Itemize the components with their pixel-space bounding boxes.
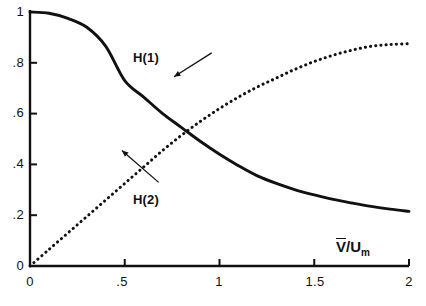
x-axis-title-subscript: m	[361, 247, 370, 258]
annotation-leader	[122, 150, 159, 182]
plot-canvas	[0, 0, 426, 306]
axis-lines	[30, 10, 409, 266]
series-annotation-h1: H(1)	[133, 50, 159, 65]
annotation-arrowhead	[174, 71, 181, 77]
y-tick-label-0-6: .6	[2, 105, 24, 120]
x-tick-label-0: 0	[18, 274, 42, 289]
x-tick-label-1: 1	[207, 274, 231, 289]
x-axis-title-denominator: U	[350, 238, 361, 255]
series-line-h1	[30, 12, 409, 211]
x-tick-label-1-5: 1.5	[300, 274, 330, 289]
chart-figure: 0 .2 .4 .6 .8 1 0 .5 1 1.5 2 H(1) H(2) V…	[0, 0, 426, 306]
annotation-leader	[174, 53, 212, 77]
x-tick-label-2: 2	[397, 274, 421, 289]
x-axis-title: V/Um	[336, 238, 370, 258]
y-tick-label-1: 1	[2, 4, 24, 19]
y-tick-label-0-4: .4	[2, 156, 24, 171]
x-tick-label-0-5: .5	[110, 274, 134, 289]
series-annotation-h2: H(2)	[133, 192, 159, 207]
y-tick-label-0: 0	[2, 258, 24, 273]
y-tick-label-0-8: .8	[2, 55, 24, 70]
x-axis-title-numerator: V	[336, 238, 346, 255]
y-tick-label-0-2: .2	[2, 207, 24, 222]
